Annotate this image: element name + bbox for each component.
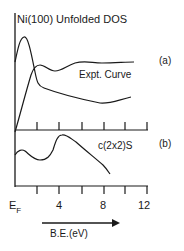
expt-curve-label: Expt. Curve xyxy=(79,69,132,80)
panel-a-label: (a) xyxy=(159,55,171,66)
dos-figure: Ni(100) Unfolded DOS Expt. Curve (a) c(2… xyxy=(0,0,184,251)
tick-label-ef: EF xyxy=(9,199,21,215)
tick-label-12: 12 xyxy=(138,199,150,211)
panel-b-x-axis xyxy=(15,186,148,194)
c2x2s-label: c(2x2)S xyxy=(98,140,133,151)
panel-b-label: (b) xyxy=(159,138,171,149)
tick-label-4: 4 xyxy=(56,199,62,211)
c2x2s-curve xyxy=(15,135,110,174)
tick-label-8: 8 xyxy=(100,199,106,211)
arrow-head-icon xyxy=(112,219,120,227)
panel-a-x-axis xyxy=(15,122,148,130)
x-axis-label: B.E.(eV) xyxy=(50,228,88,239)
chart-title: Ni(100) Unfolded DOS xyxy=(17,13,127,25)
